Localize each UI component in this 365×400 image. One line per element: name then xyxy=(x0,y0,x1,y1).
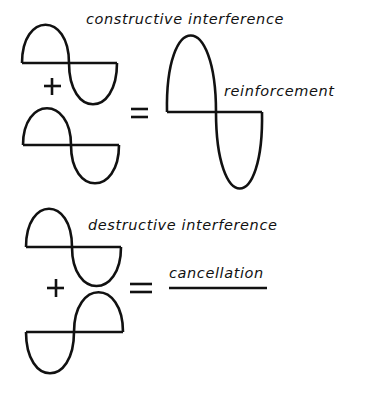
destructive-title: destructive interference xyxy=(88,217,278,233)
reinforcement-label: reinforcement xyxy=(224,83,335,99)
cancellation-label: cancellation xyxy=(169,265,264,281)
equals-sign-1 xyxy=(131,109,148,117)
reinforcement-wave xyxy=(167,36,262,189)
interference-diagram: constructive interference reinforcement … xyxy=(0,0,365,400)
plus-sign-2 xyxy=(47,279,64,297)
equals-sign-2 xyxy=(130,284,152,292)
constructive-wave-1 xyxy=(22,25,117,105)
plus-sign-1 xyxy=(44,78,61,95)
destructive-wave-2 xyxy=(26,292,123,373)
constructive-wave-2 xyxy=(23,108,119,183)
constructive-title: constructive interference xyxy=(86,11,284,27)
